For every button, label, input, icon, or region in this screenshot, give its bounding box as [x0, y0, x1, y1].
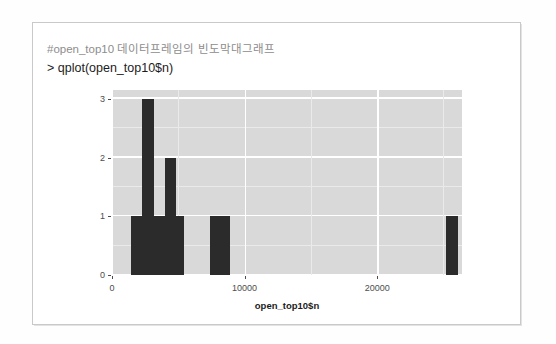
code-command-line: > qplot(open_top10$n): [47, 61, 173, 75]
gridline-minor-vertical: [311, 90, 312, 275]
x-tick-label: 0: [109, 283, 114, 293]
histogram-bar: [165, 158, 176, 275]
histogram-plot: open_top10$n 012301000020000: [47, 85, 487, 313]
plot-panel: [112, 90, 462, 275]
x-tick-mark: [377, 276, 378, 279]
y-tick-label: 2: [100, 153, 105, 163]
histogram-bar: [210, 216, 230, 275]
y-tick-mark: [108, 158, 111, 159]
y-tick-label: 1: [100, 211, 105, 221]
y-tick-mark: [108, 216, 111, 217]
content-card: #open_top10 데이터프레임의 빈도막대그래프 > qplot(open…: [32, 22, 521, 325]
y-tick-label: 3: [100, 94, 105, 104]
gridline-minor-vertical: [443, 90, 444, 275]
histogram-bar: [446, 216, 458, 275]
histogram-bar: [154, 216, 165, 275]
histogram-bar: [131, 216, 142, 275]
x-axis-title: open_top10$n: [112, 300, 462, 311]
x-tick-label: 20000: [365, 283, 390, 293]
y-tick-mark: [108, 99, 111, 100]
x-tick-mark: [245, 276, 246, 279]
gridline-major-horizontal: [112, 97, 462, 98]
histogram-bar: [176, 216, 183, 275]
gridline-major-vertical: [112, 90, 113, 275]
gridline-major-vertical: [377, 90, 378, 275]
page-root: #open_top10 데이터프레임의 빈도막대그래프 > qplot(open…: [0, 0, 556, 344]
y-tick-mark: [108, 275, 111, 276]
x-tick-mark: [112, 276, 113, 279]
gridline-minor-horizontal: [112, 127, 462, 128]
x-tick-label: 10000: [232, 283, 257, 293]
histogram-bar: [142, 99, 153, 275]
gridline-major-vertical: [245, 90, 246, 275]
y-tick-label: 0: [100, 270, 105, 280]
code-comment-line: #open_top10 데이터프레임의 빈도막대그래프: [47, 40, 275, 56]
